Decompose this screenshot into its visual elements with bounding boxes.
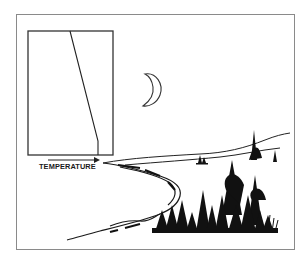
temperature-axis-label: TEMPERATURE [39,162,96,171]
temperature-profile-chart [28,31,113,155]
temperature-profile-line [70,31,98,155]
island [196,155,208,165]
crescent-moon-icon [143,74,161,106]
landscape-illustration [0,0,308,261]
conifer-trees [152,130,278,233]
distant-hills [103,133,290,165]
